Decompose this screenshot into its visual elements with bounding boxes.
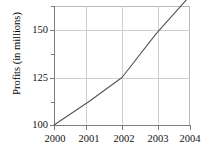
x-tick-label-2003: 2003 bbox=[148, 133, 169, 144]
data-series-profits bbox=[54, 6, 191, 126]
y-tick-label-150: 150 bbox=[0, 24, 48, 35]
x-tick-label-2002: 2002 bbox=[114, 133, 135, 144]
y-axis-title: Profits (in millions) bbox=[11, 0, 22, 114]
x-tick-label-2004: 2004 bbox=[180, 133, 201, 144]
y-tick-label-125: 125 bbox=[0, 72, 48, 83]
x-tick-label-2001: 2001 bbox=[79, 133, 100, 144]
line-chart: Profits (in millions) 150 125 100 2000 2… bbox=[0, 0, 209, 156]
y-tick-label-100: 100 bbox=[0, 119, 48, 130]
x-tick-label-2000: 2000 bbox=[45, 133, 66, 144]
